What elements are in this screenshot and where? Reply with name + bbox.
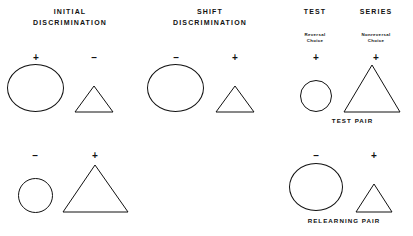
header-initial-discrimination: INITIAL DISCRIMINATION — [10, 7, 130, 28]
sign-shift-top-triangle: + — [228, 53, 242, 63]
sign-initial-bottom-triangle: + — [88, 151, 102, 161]
stimulus-shift-top-circle — [147, 64, 204, 112]
sublabel-nonreversal-line2: Choice — [349, 38, 403, 44]
header-shift-line2: DISCRIMINATION — [150, 18, 270, 29]
stimulus-relearning-pair-triangle — [355, 183, 393, 213]
stimulus-initial-bottom-triangle — [62, 164, 129, 213]
sign-relearning-pair-circle: – — [309, 151, 323, 161]
header-series-line1: SERIES — [348, 7, 404, 18]
header-test-line1: TEST — [291, 7, 339, 18]
stimulus-shift-top-triangle — [215, 85, 255, 113]
header-initial-line2: DISCRIMINATION — [10, 18, 130, 29]
sublabel-nonreversal-choice: Nonreversal Choice — [349, 32, 403, 44]
header-initial-line1: INITIAL — [10, 7, 130, 18]
sign-test-pair-triangle: + — [369, 53, 383, 63]
stimulus-initial-top-circle — [7, 64, 64, 112]
sign-initial-top-circle: + — [29, 53, 43, 63]
sign-initial-bottom-circle: – — [28, 151, 42, 161]
sign-shift-top-circle: – — [169, 53, 183, 63]
stimulus-test-pair-circle — [300, 80, 332, 112]
header-series: SERIES — [348, 7, 404, 18]
sign-test-pair-circle: + — [309, 53, 323, 63]
stimulus-initial-top-triangle — [74, 85, 114, 113]
stimulus-initial-bottom-circle — [18, 178, 53, 213]
stimulus-relearning-pair-circle — [289, 163, 343, 211]
label-relearning-pair: RELEARNING PAIR — [282, 217, 406, 225]
label-test-pair: TEST PAIR — [300, 117, 405, 125]
sublabel-reversal-line2: Choice — [292, 38, 338, 44]
sublabel-reversal-choice: Reversal Choice — [292, 32, 338, 44]
sign-relearning-pair-triangle: + — [367, 151, 381, 161]
figure-canvas: INITIAL DISCRIMINATION SHIFT DISCRIMINAT… — [0, 0, 413, 236]
header-shift-discrimination: SHIFT DISCRIMINATION — [150, 7, 270, 28]
header-shift-line1: SHIFT — [150, 7, 270, 18]
header-test: TEST — [291, 7, 339, 18]
sign-initial-top-triangle: – — [87, 53, 101, 63]
stimulus-test-pair-triangle — [343, 64, 401, 113]
